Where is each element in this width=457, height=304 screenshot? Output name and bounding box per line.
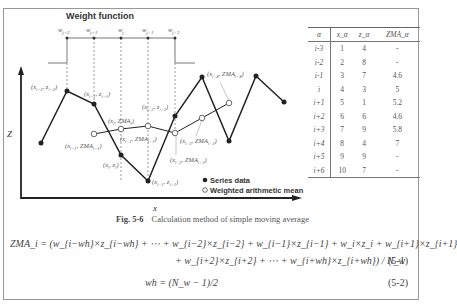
label-p-ip1: (xi+1, zi+1) xyxy=(152,178,178,187)
legend-mean: Weighted arithmetic mean xyxy=(210,186,304,195)
caption-number: Fig. 5-6 xyxy=(116,214,143,224)
svg-text:wj−1: wj−1 xyxy=(86,26,98,35)
legend-series: Series data xyxy=(210,176,251,185)
label-m-ip2: (xi+2, ZMAi+2) xyxy=(170,156,207,165)
series-points xyxy=(39,74,287,184)
label-m-ip1: (xi+1, ZMAi+1) xyxy=(120,135,157,144)
col-x: x_α xyxy=(331,28,354,42)
svg-text:wj−2: wj−2 xyxy=(58,26,70,35)
weight-labels: wj−2 wj−1 wj wj+1 wj+2 xyxy=(58,26,180,35)
label-m-ip3: (xi+3, ZMAi+3) xyxy=(180,137,217,146)
table-row: i-228- xyxy=(308,56,420,70)
legend: Series data Weighted arithmetic mean xyxy=(203,176,304,195)
table-row: i-1374.6 xyxy=(308,69,420,83)
col-alpha: α xyxy=(308,28,331,42)
table-row: i+3795.8 xyxy=(308,123,420,137)
equation-5-2: wh = (N_w − 1)/2 xyxy=(145,277,218,288)
table-row: i+599- xyxy=(308,150,420,164)
svg-text:x: x xyxy=(152,203,157,213)
col-zma: ZMA_α xyxy=(375,28,420,42)
svg-text:wj+2: wj+2 xyxy=(168,26,180,35)
axes xyxy=(21,72,296,198)
table-row: i+4847 xyxy=(308,137,420,151)
col-z: z_α xyxy=(353,28,374,42)
equation-5-1-number: (5-1) xyxy=(388,255,408,266)
svg-text:Z: Z xyxy=(7,129,13,139)
equation-5-1-line1: ZMA_i = (w_{i−wh}×z_{i−wh} + ⋯ + w_{i−2}… xyxy=(10,238,457,249)
data-table: α x_α z_α ZMA_α i-314- i-228- i-1374.6 i… xyxy=(308,27,420,178)
label-m-im1: (xi−1, ZMAi−1) xyxy=(65,142,102,151)
table-row: i-314- xyxy=(308,42,420,56)
svg-text:wj+1: wj+1 xyxy=(142,26,154,35)
series-line xyxy=(41,76,284,181)
table-row: i+6107- xyxy=(308,164,420,178)
label-m-ip4: (xi+4, ZMAi+4) xyxy=(207,70,244,79)
svg-text:wj: wj xyxy=(118,26,124,35)
caption-text: Calculation method of simple moving aver… xyxy=(151,214,308,224)
table-row: i+1515.2 xyxy=(308,96,420,110)
label-p-i: (xi, zi) xyxy=(103,161,119,170)
label-p-im1: (xi−1, zi−1) xyxy=(84,90,110,99)
equation-5-1-line2: + w_{i+2}×z_{i+2} + ⋯ + w_{i+wh}×z_{i+wh… xyxy=(175,255,405,266)
label-m-i: (xi, ZMAi) xyxy=(108,117,134,126)
label-p-im2: (xi−2, zi−2) xyxy=(31,83,57,92)
table-row: i+2664.6 xyxy=(308,110,420,124)
table-row: i435 xyxy=(308,83,420,97)
equation-5-2-number: (5-2) xyxy=(388,277,408,288)
figure-caption: Fig. 5-6Calculation method of simple mov… xyxy=(0,214,425,224)
label-p-ip2: (xi+2, zi+2) xyxy=(142,103,168,112)
